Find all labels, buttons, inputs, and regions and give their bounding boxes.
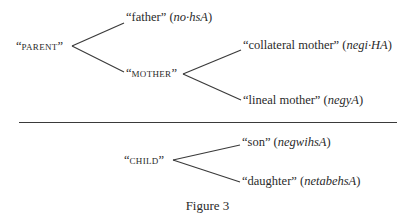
branch-child-daughter	[173, 160, 240, 182]
node-collateral-mother-term: negi·HA	[346, 38, 387, 52]
figure-caption: Figure 3	[0, 198, 415, 214]
node-son: “son” (negwihsA)	[242, 135, 331, 149]
branch-mother-lineal	[183, 74, 241, 100]
node-parent-label: PARENT	[22, 39, 58, 53]
branch-parent-mother	[72, 46, 124, 72]
node-lineal-mother-term: negyA	[328, 93, 359, 107]
tree-branches	[0, 0, 415, 222]
node-daughter: “daughter” (netabehsA)	[242, 174, 360, 188]
node-lineal-mother-gloss: lineal mother	[249, 93, 315, 107]
node-father-gloss: father	[132, 10, 161, 24]
node-son-gloss: son	[248, 135, 265, 149]
branch-parent-father	[72, 23, 124, 46]
node-son-term: negwihsA	[278, 135, 327, 149]
branch-mother-collateral	[183, 50, 241, 74]
node-mother: “MOTHER”	[126, 66, 177, 80]
node-collateral-mother-gloss: collateral mother	[249, 38, 334, 52]
node-father: “father” (no·hsA)	[126, 10, 212, 24]
node-child-label: CHILD	[130, 153, 159, 167]
node-father-term: no·hsA	[174, 10, 208, 24]
node-mother-label: MOTHER	[132, 66, 172, 80]
node-collateral-mother: “collateral mother” (negi·HA)	[243, 38, 392, 52]
branch-child-son	[173, 145, 240, 160]
node-child: “CHILD”	[124, 153, 164, 167]
section-divider	[19, 122, 397, 123]
node-daughter-term: netabehsA	[304, 174, 356, 188]
node-daughter-gloss: daughter	[248, 174, 292, 188]
node-parent: “PARENT”	[16, 39, 63, 53]
node-lineal-mother: “lineal mother” (negyA)	[243, 93, 363, 107]
